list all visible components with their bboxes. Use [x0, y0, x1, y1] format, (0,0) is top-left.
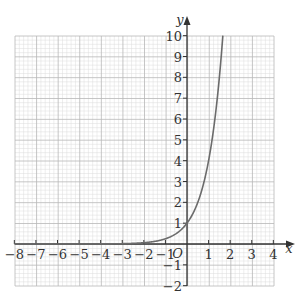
x-tick-label: −4 — [91, 247, 110, 262]
y-tick-label: 7 — [174, 91, 182, 106]
y-tick-label: 6 — [174, 112, 182, 127]
x-tick-label: 2 — [226, 247, 234, 262]
x-tick-label: −5 — [69, 247, 88, 262]
y-tick-label: 4 — [174, 154, 182, 169]
y-tick-label: 2 — [174, 195, 182, 210]
x-tick-label: 3 — [248, 247, 256, 262]
origin-label: O — [172, 246, 183, 261]
y-tick-label: 9 — [174, 50, 182, 65]
x-tick-label: −2 — [134, 247, 153, 262]
x-tick-label: −8 — [5, 247, 24, 262]
x-tick-label: −6 — [48, 247, 67, 262]
y-tick-label: 1 — [174, 216, 182, 231]
x-tick-label: 1 — [204, 247, 212, 262]
y-tick-label: 10 — [165, 29, 182, 44]
x-tick-label: −7 — [26, 247, 45, 262]
y-tick-label: 8 — [174, 70, 182, 85]
y-axis-label: y — [175, 12, 184, 27]
exponential-graph: −8−7−6−5−4−3−2−11234−2−112345678910Oxy — [0, 0, 298, 300]
y-tick-label: −2 — [163, 279, 182, 294]
x-tick-label: 4 — [269, 247, 277, 262]
y-tick-label: 3 — [174, 175, 182, 190]
y-axis-arrow-icon — [184, 16, 191, 25]
x-tick-label: −3 — [113, 247, 132, 262]
x-axis-label: x — [285, 241, 293, 256]
y-tick-label: 5 — [174, 133, 182, 148]
